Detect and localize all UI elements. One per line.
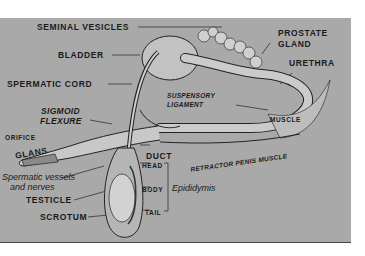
label-muscle: MUSCLE	[270, 117, 301, 124]
label-orifice: ORIFICE	[5, 135, 36, 142]
label-spermatic-cord: SPERMATIC CORD	[7, 80, 92, 89]
label-scrotum: SCROTUM	[40, 213, 87, 222]
label-sigmoid-flexure: SIGMOID	[41, 107, 80, 116]
label-epididymis-body: BODY	[142, 187, 163, 194]
label-spermatic-vessels: Spermatic vessels	[2, 173, 75, 182]
label-spermatic-vessels-line2: and nerves	[10, 183, 55, 192]
label-testicle: TESTICLE	[26, 196, 72, 205]
label-urethra: URETHRA	[289, 59, 335, 68]
label-suspensory-ligament: SUSPENSORY	[167, 93, 215, 100]
label-duct: DUCT	[146, 152, 172, 161]
label-epididymis-tail: TAIL	[145, 210, 161, 217]
label-epididymis-head: HEAD	[142, 163, 163, 170]
label-seminal-vesicles: SEMINAL VESICLES	[37, 23, 129, 32]
label-prostate-gland-line2: GLAND	[278, 40, 311, 49]
label-prostate-gland: PROSTATE	[278, 29, 328, 38]
label-bladder: BLADDER	[58, 51, 104, 60]
label-sigmoid-flexure-line2: FLEXURE	[40, 117, 82, 126]
diagram-panel: SEMINAL VESICLES PROSTATE GLAND BLADDER …	[0, 18, 351, 243]
anatomy-illustration	[0, 18, 351, 242]
label-suspensory-ligament-line2: LIGAMENT	[167, 102, 203, 109]
label-epididymis: Epididymis	[172, 184, 216, 193]
